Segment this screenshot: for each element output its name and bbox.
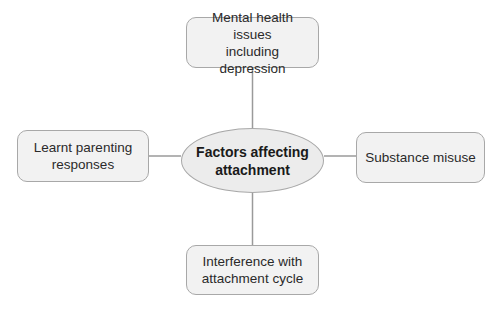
node-label-line2: including depression [219,44,285,76]
node-label-line2: responses [52,157,114,172]
center-node-factors-affecting-attachment: Factors affecting attachment [181,128,324,193]
node-label-line1: Substance misuse [365,150,475,165]
node-label-line1: Interference with [203,254,303,269]
node-substance-misuse: Substance misuse [356,132,485,183]
mind-map-diagram: Mental health issues including depressio… [0,0,501,310]
node-learnt-parenting: Learnt parenting responses [17,130,149,182]
node-label-line1: Learnt parenting [34,140,132,155]
node-mental-health: Mental health issues including depressio… [186,17,319,68]
node-label-line1: Mental health issues [212,10,293,42]
center-label-line1: Factors affecting [196,144,309,160]
center-label-line2: attachment [215,162,290,178]
node-label-line2: attachment cycle [202,271,303,286]
node-interference: Interference with attachment cycle [186,245,319,295]
